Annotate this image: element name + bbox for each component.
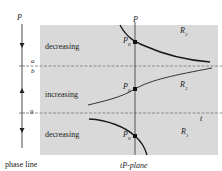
arrow-up-icon [20, 88, 25, 93]
level-zero-label: 0 [30, 108, 34, 116]
region-subscript: 3 [185, 32, 188, 37]
point-subscript: 0 [128, 42, 131, 47]
point-p0-r2 [133, 87, 137, 91]
p0-label-r3: P0 [123, 36, 130, 47]
region-subscript: 1 [186, 133, 189, 138]
plane-caption: tP-plane [120, 161, 148, 170]
point-subscript: 0 [128, 88, 131, 93]
point-subscript: 0 [128, 136, 131, 141]
plane-t-axis-label: t [200, 114, 202, 123]
p0-label-r1: P0 [123, 130, 130, 141]
plane-p-axis-label: P [133, 15, 138, 24]
arrow-down-icon [20, 43, 25, 48]
region-r1-label: R1 [181, 127, 188, 138]
region-subscript: 2 [185, 86, 188, 91]
level-a-label: a [31, 57, 35, 65]
point-p0-r1 [133, 134, 137, 138]
point-p0-r3 [133, 40, 137, 44]
p0-label-r2: P0 [123, 82, 130, 93]
region-r1-behavior: decreasing [45, 130, 79, 139]
caption-rest: P-plane [122, 161, 147, 170]
region-r3-behavior: decreasing [45, 42, 79, 51]
level-b-label: b [31, 67, 35, 75]
region-r2-behavior: increasing [45, 90, 78, 99]
diagram-graphics [0, 0, 222, 171]
phase-line-caption: phase line [5, 160, 37, 169]
arrow-down-icon [20, 128, 25, 133]
phase-line-p-label: P [17, 13, 22, 22]
region-r3-label: R3 [180, 26, 187, 37]
region-r2-label: R2 [180, 80, 187, 91]
